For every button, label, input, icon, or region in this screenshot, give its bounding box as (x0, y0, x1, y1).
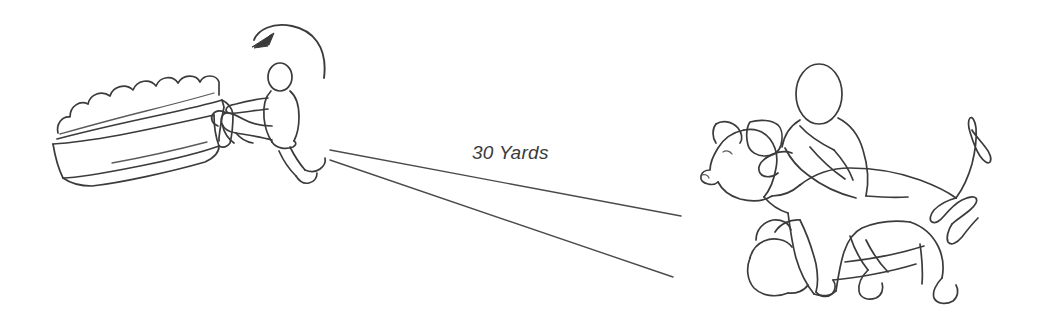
distance-label: 30 Yards (472, 142, 549, 163)
hedge-bushes (58, 76, 219, 134)
dog (701, 117, 991, 303)
line-art-svg: 30 Yards (0, 0, 1044, 330)
kneeling-handler (748, 64, 924, 296)
garden-wall (53, 100, 233, 186)
kneeling-handler-restraining-dog (701, 64, 991, 303)
running-person-behind-hedge-wall (53, 63, 325, 186)
curved-direction-arrow (252, 25, 325, 78)
diverging-sight-lines (330, 150, 681, 277)
running-person (212, 63, 326, 183)
illustration-canvas: 30 Yards (0, 0, 1044, 330)
